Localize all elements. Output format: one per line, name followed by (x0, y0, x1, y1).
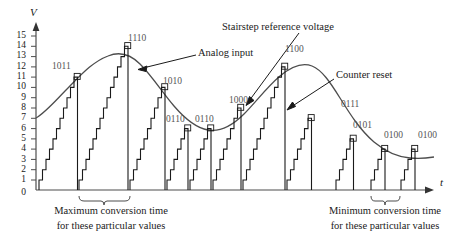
adc-timing-figure: V t 15 14 13 12 11 10 9 8 7 6 5 4 3 2 1 … (0, 0, 457, 241)
code-label-0100-a: 0100 (384, 131, 403, 141)
max-conversion-time-caption-line2: for these particular values (46, 221, 176, 232)
y-tick-1: 1 (12, 175, 26, 185)
stairstep-reference-waveform (39, 46, 415, 190)
y-tick-0: 0 (12, 188, 26, 198)
code-label-0111: 0111 (341, 100, 359, 110)
code-label-1110: 1110 (128, 34, 146, 44)
code-label-0101: 0101 (353, 121, 372, 131)
code-label-1010: 1010 (163, 77, 182, 87)
analog-input-annotation: Analog input (198, 48, 253, 59)
counter-reset-annotation: Counter reset (336, 70, 392, 81)
x-axis (36, 187, 434, 194)
y-tick-7: 7 (12, 113, 26, 123)
stairstep-reference-voltage-annotation: Stairstep reference voltage (222, 22, 334, 33)
min-conversion-time-caption-line1: Minimum conversion time (320, 206, 450, 217)
code-label-1011-a: 1011 (52, 62, 71, 72)
x-axis-label: t (440, 177, 443, 188)
max-conversion-time-caption-line1: Maximum conversion time (46, 206, 176, 217)
y-tick-4: 4 (12, 144, 26, 154)
y-axis-ticks (31, 36, 36, 180)
conversion-time-braces (79, 196, 400, 205)
code-label-0100-b: 0100 (418, 131, 437, 141)
y-tick-10: 10 (12, 82, 26, 92)
y-tick-13: 13 (12, 51, 26, 61)
min-conversion-time-caption-line2: for these particular values (320, 221, 450, 232)
code-label-1000: 1000 (229, 96, 248, 106)
code-label-0110-a: 0110 (166, 115, 185, 125)
y-axis-label: V (30, 7, 37, 18)
code-label-0110-b: 0110 (195, 115, 214, 125)
y-axis (33, 22, 40, 190)
code-label-1100: 1100 (285, 45, 304, 55)
